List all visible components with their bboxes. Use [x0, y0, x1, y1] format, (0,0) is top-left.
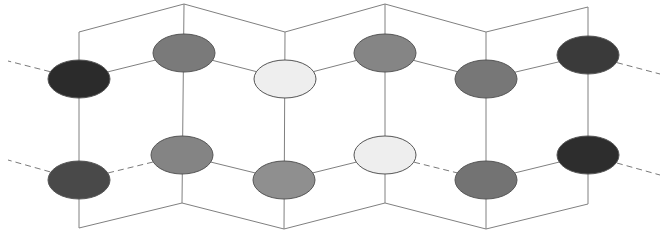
node-1 — [48, 60, 110, 98]
node-8 — [151, 136, 213, 174]
node-10 — [354, 136, 416, 174]
lattice-diagram-figure — [0, 0, 667, 235]
node-7 — [48, 161, 110, 199]
node-3 — [254, 60, 316, 98]
node-9 — [253, 161, 315, 199]
node-11 — [455, 161, 517, 199]
node-2 — [153, 34, 215, 72]
figure-background — [0, 0, 667, 235]
lattice-canvas — [0, 0, 667, 235]
node-6 — [557, 36, 619, 74]
node-12 — [557, 136, 619, 174]
node-5 — [455, 60, 517, 98]
node-4 — [354, 34, 416, 72]
